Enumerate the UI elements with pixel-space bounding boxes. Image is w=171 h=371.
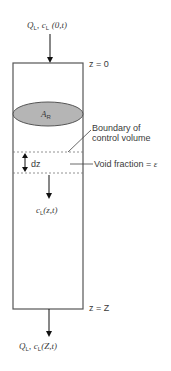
column-outline (13, 63, 83, 309)
outlet-label: QL, cL(Z,t) (19, 341, 57, 354)
column-diagram (0, 0, 171, 371)
boundary-leader (68, 130, 91, 152)
area-label: AR (41, 109, 51, 122)
bottom-position-label: z = Z (89, 303, 109, 313)
dz-label: dz (31, 159, 41, 169)
top-position-label: z = 0 (89, 59, 109, 69)
boundary-label: Boundary of control volume (92, 123, 151, 143)
inlet-label: QL, cL (0,t) (27, 20, 67, 33)
void-fraction-label: Void fraction = ε (94, 159, 157, 169)
concentration-label: cL(z,t) (36, 205, 58, 218)
